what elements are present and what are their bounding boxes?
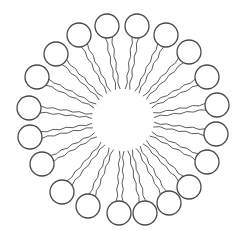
micelle-diagram [0,0,241,236]
lipid-tail [154,110,207,118]
lipid-tail [105,37,115,89]
lipid-tail [122,151,124,202]
lipid-tail [125,36,132,89]
hydrophilic-heads [17,14,229,225]
lipid-tail [116,151,120,202]
lipid-tail [130,37,139,89]
lipid-head [76,194,100,218]
lipid-tail [40,123,92,132]
lipid-head [177,40,201,64]
lipid-tail [66,142,101,181]
lipid-tail [147,140,184,176]
lipid-tail [136,148,161,195]
lipid-head [177,175,201,199]
lipid-tail [53,137,97,162]
lipid-tail [42,128,93,139]
lipid-head [30,152,54,176]
lipid-tail [153,103,205,113]
lipid-head [50,180,74,204]
lipid-tail [143,57,179,96]
lipid-head [154,23,178,47]
lipid-tail [50,133,95,156]
lipid-tail [152,85,199,108]
lipid-head [67,23,91,47]
lipid-head [107,201,131,225]
lipid-tail [48,79,96,104]
lipid-tail [133,150,147,202]
lipid-head [133,201,157,225]
lipid-tail [72,145,105,186]
lipid-tail [81,46,107,93]
lipid-tail [153,127,204,136]
lipid-head [125,14,149,38]
lipid-tail [112,36,120,89]
lipid-head [195,150,219,174]
lipid-head [205,93,229,117]
lipid-head [25,65,49,89]
lipid-head [95,14,119,38]
lipid-head [44,42,68,66]
lipid-head [17,96,41,120]
lipid-head [204,122,228,146]
lipid-tail [140,146,167,192]
lipid-tail [45,85,94,108]
lipid-tail [154,122,206,129]
lipid-head [195,65,219,89]
lipid-head [18,125,42,149]
lipid-head [157,191,181,215]
lipid-tail [152,132,199,154]
lipid-tail [150,79,196,104]
